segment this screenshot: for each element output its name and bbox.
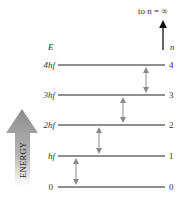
energy-axis-label: E — [47, 42, 54, 52]
energy-level-diagram: to n = ∞ E n 4hf 3hf 2hf hf 0 4 3 2 1 0 … — [0, 0, 182, 199]
n-axis-label: n — [170, 42, 175, 52]
energy-label: ENERGY — [18, 142, 28, 178]
n-label-3: 3 — [169, 90, 174, 100]
energy-label-2: 2hf — [43, 120, 56, 130]
n-label-1: 1 — [169, 151, 174, 161]
energy-label-1: hf — [48, 151, 57, 161]
energy-label-3: 3hf — [42, 90, 56, 100]
energy-arrow-icon: ENERGY — [6, 109, 38, 186]
n-label-0: 0 — [169, 182, 174, 192]
n-label-4: 4 — [169, 60, 174, 70]
n-label-2: 2 — [169, 120, 174, 130]
energy-label-0: 0 — [49, 182, 54, 192]
level-lines — [58, 65, 165, 187]
transition-arrows — [76, 70, 146, 182]
energy-label-4: 4hf — [43, 60, 56, 70]
infinity-note: to n = ∞ — [138, 6, 168, 16]
